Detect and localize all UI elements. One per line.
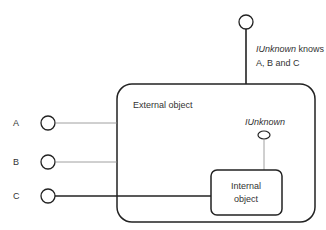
interface-b-label: B [13,157,19,167]
interface-a-icon [41,116,55,130]
top-note-line2: A, B and C [256,58,300,68]
external-object-label: External object [133,100,193,110]
interface-a-label: A [13,118,19,128]
outer-iunknown-interface-icon [239,15,253,29]
internal-object-label-line2: object [234,194,259,204]
inner-iunknown-interface-icon [258,131,270,139]
internal-object-box [211,170,282,215]
interface-c-icon [41,189,55,203]
inner-iunknown-label: IUnknown [245,117,285,127]
interface-c-label: C [13,191,20,201]
com-aggregation-diagram: IUnknown knows A, B and C External objec… [0,0,326,230]
top-note-line1: IUnknown knows [256,44,325,54]
internal-object-label-line1: Internal [231,181,261,191]
interface-b-icon [41,155,55,169]
